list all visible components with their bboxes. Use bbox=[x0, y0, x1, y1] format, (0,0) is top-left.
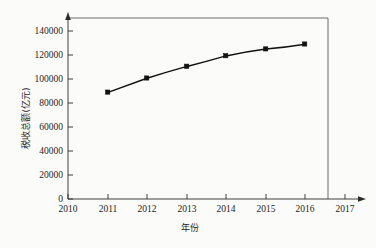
x-tick-label-2010: 2010 bbox=[59, 204, 78, 214]
tax-revenue-line-chart: 0 20000 40000 60000 80000 100000 120000 … bbox=[0, 0, 376, 248]
x-tick-label-2014: 2014 bbox=[217, 204, 236, 214]
y-tick-label-40000: 40000 bbox=[39, 146, 63, 156]
x-tick-label-2016: 2016 bbox=[296, 204, 315, 214]
y-tick-label-20000: 20000 bbox=[39, 170, 63, 180]
chart-page: 0 20000 40000 60000 80000 100000 120000 … bbox=[0, 0, 376, 248]
data-point-2011 bbox=[106, 90, 110, 94]
x-tick-label-2015: 2015 bbox=[257, 204, 276, 214]
data-point-2012 bbox=[145, 76, 149, 80]
y-axis-title: 税收总额(亿元) bbox=[20, 87, 31, 148]
y-tick-label-120000: 120000 bbox=[35, 50, 64, 60]
data-point-2016 bbox=[303, 42, 307, 46]
x-axis-title: 年份 bbox=[181, 222, 199, 233]
y-tick-label-60000: 60000 bbox=[39, 122, 63, 132]
x-tick-label-2012: 2012 bbox=[138, 204, 157, 214]
y-tick-label-100000: 100000 bbox=[35, 74, 64, 84]
y-tick-label-140000: 140000 bbox=[35, 26, 64, 36]
y-tick-label-80000: 80000 bbox=[39, 98, 63, 108]
data-point-2014 bbox=[224, 54, 228, 58]
plot-background bbox=[68, 14, 328, 199]
data-point-2015 bbox=[264, 47, 268, 51]
x-axis-arrow-icon bbox=[358, 196, 366, 202]
x-tick-label-2011: 2011 bbox=[99, 204, 118, 214]
y-tick-label-0: 0 bbox=[58, 194, 63, 204]
x-tick-label-2017: 2017 bbox=[336, 204, 355, 214]
data-point-2013 bbox=[185, 64, 189, 68]
x-tick-label-2013: 2013 bbox=[178, 204, 197, 214]
